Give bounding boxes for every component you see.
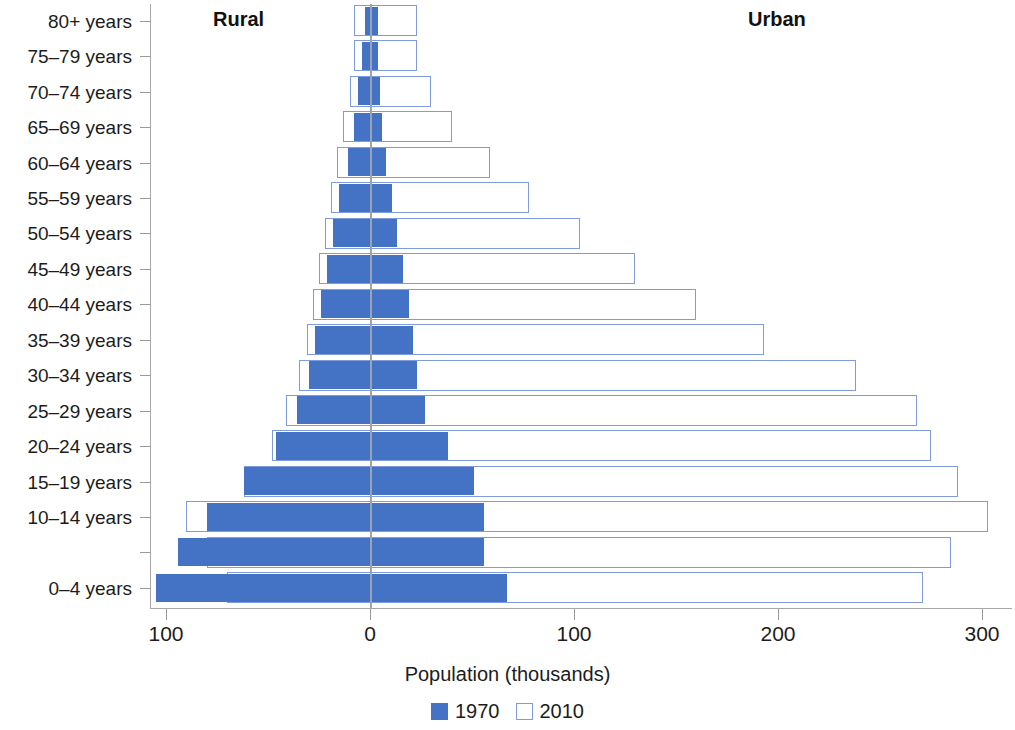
age-group-row xyxy=(0,571,1015,604)
bar-1970 xyxy=(365,7,378,35)
y-axis-tick xyxy=(140,92,150,93)
x-axis-tick-label: 100 xyxy=(556,622,591,646)
age-group-row xyxy=(0,465,1015,498)
y-axis-tick xyxy=(140,340,150,341)
bar-1970 xyxy=(244,467,475,495)
x-axis-tick xyxy=(574,609,575,620)
age-group-row xyxy=(0,39,1015,72)
bar-1970 xyxy=(321,290,409,318)
y-axis-tick xyxy=(140,588,150,589)
bar-1970 xyxy=(309,361,417,389)
y-axis-label: 60–64 years xyxy=(27,153,132,172)
y-axis-tick xyxy=(140,127,150,128)
y-axis-label: 10–14 years xyxy=(27,508,132,527)
plot-area xyxy=(0,0,1015,612)
x-axis-tick-label: 0 xyxy=(364,622,376,646)
rural-side-title: Rural xyxy=(213,8,264,31)
bar-1970 xyxy=(354,113,383,141)
age-group-row xyxy=(0,429,1015,462)
legend-label: 1970 xyxy=(455,700,500,723)
x-axis-title: Population (thousands) xyxy=(0,663,1015,686)
age-group-row xyxy=(0,110,1015,143)
population-pyramid-chart: 0–4 years10–14 years15–19 years20–24 yea… xyxy=(0,0,1015,730)
zero-axis-line xyxy=(370,4,372,608)
x-axis-tick-label: 300 xyxy=(964,622,999,646)
y-axis-tick xyxy=(140,375,150,376)
y-axis-tick xyxy=(140,482,150,483)
age-group-row xyxy=(0,252,1015,285)
age-group-row xyxy=(0,75,1015,108)
age-group-row xyxy=(0,536,1015,569)
y-axis-label: 15–19 years xyxy=(27,472,132,491)
y-axis-tick xyxy=(140,21,150,22)
y-axis-tick xyxy=(140,198,150,199)
legend-swatch-icon xyxy=(516,703,533,720)
age-group-row xyxy=(0,288,1015,321)
bar-1970 xyxy=(333,219,396,247)
age-group-row xyxy=(0,146,1015,179)
age-group-row xyxy=(0,359,1015,392)
legend-swatch-icon xyxy=(431,703,448,720)
y-axis-labels: 0–4 years10–14 years15–19 years20–24 yea… xyxy=(0,0,140,612)
y-axis-tick xyxy=(140,411,150,412)
y-axis-tick xyxy=(140,446,150,447)
y-axis-tick xyxy=(140,56,150,57)
x-axis-line xyxy=(150,608,1012,609)
x-axis-tick xyxy=(166,609,167,620)
y-axis-line xyxy=(150,4,151,608)
y-axis-label: 40–44 years xyxy=(27,295,132,314)
y-axis-label: 75–79 years xyxy=(27,47,132,66)
bar-1970 xyxy=(315,326,413,354)
y-axis-label: 0–4 years xyxy=(49,578,132,597)
age-group-row xyxy=(0,394,1015,427)
legend-item[interactable]: 1970 xyxy=(431,700,500,723)
bar-1970 xyxy=(156,574,507,602)
bar-1970 xyxy=(297,396,426,424)
age-group-row xyxy=(0,4,1015,37)
age-group-row xyxy=(0,181,1015,214)
bar-1970 xyxy=(276,432,447,460)
urban-side-title: Urban xyxy=(748,8,806,31)
chart-legend: 19702010 xyxy=(0,700,1015,723)
legend-label: 2010 xyxy=(540,700,585,723)
bar-1970 xyxy=(327,255,402,283)
y-axis-label: 45–49 years xyxy=(27,259,132,278)
y-axis-label: 30–34 years xyxy=(27,366,132,385)
bar-1970 xyxy=(339,184,392,212)
y-axis-label: 70–74 years xyxy=(27,82,132,101)
age-group-row xyxy=(0,323,1015,356)
y-axis-tick xyxy=(140,304,150,305)
y-axis-label: 55–59 years xyxy=(27,188,132,207)
bar-2010 xyxy=(354,5,417,36)
y-axis-tick xyxy=(140,269,150,270)
y-axis-label: 80+ years xyxy=(48,11,132,30)
y-axis-label: 65–69 years xyxy=(27,118,132,137)
age-group-row xyxy=(0,217,1015,250)
y-axis-tick xyxy=(140,517,150,518)
y-axis-label: 20–24 years xyxy=(27,437,132,456)
x-axis-tick-label: 100 xyxy=(148,622,183,646)
age-group-row xyxy=(0,500,1015,533)
bar-1970 xyxy=(178,538,484,566)
x-axis-tick-label: 200 xyxy=(760,622,795,646)
y-axis-tick xyxy=(140,233,150,234)
legend-item[interactable]: 2010 xyxy=(516,700,585,723)
y-axis-tick xyxy=(140,163,150,164)
y-axis-tick xyxy=(140,552,150,553)
bar-1970 xyxy=(348,148,387,176)
y-axis-label: 35–39 years xyxy=(27,330,132,349)
x-axis-tick xyxy=(982,609,983,620)
y-axis-label: 50–54 years xyxy=(27,224,132,243)
y-axis-label: 25–29 years xyxy=(27,401,132,420)
bar-1970 xyxy=(207,503,484,531)
bar-1970 xyxy=(358,77,380,105)
x-axis-tick xyxy=(370,609,371,620)
x-axis-tick xyxy=(778,609,779,620)
